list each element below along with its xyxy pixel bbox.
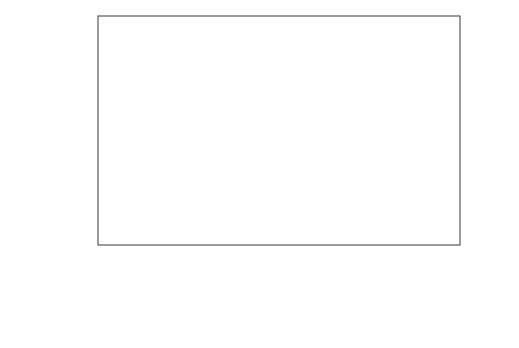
plot-frame <box>98 16 460 245</box>
probability-plot-figure <box>0 0 519 348</box>
plot-canvas <box>0 0 519 348</box>
